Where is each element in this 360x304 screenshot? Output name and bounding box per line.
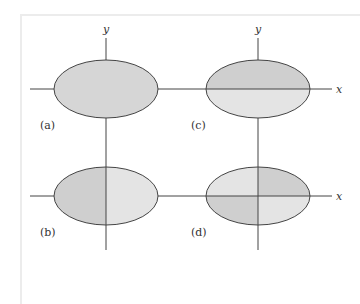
panel-a: y (a) <box>30 23 180 152</box>
y-axis-label: y <box>102 23 110 36</box>
ellipse <box>54 60 158 118</box>
ellipse-diagram: y (a) y x (c) (b) <box>0 0 360 304</box>
panel-label: (b) <box>40 226 56 239</box>
panel-label: (d) <box>191 226 207 239</box>
panel-c: y x (c) <box>180 23 343 152</box>
panel-label: (c) <box>191 119 206 132</box>
x-axis-label: x <box>336 83 343 96</box>
panel-d: x (d) <box>180 152 343 250</box>
panel-b: (b) <box>30 152 180 250</box>
x-axis-label: x <box>336 190 343 203</box>
panel-label: (a) <box>40 119 55 132</box>
y-axis-label: y <box>254 23 262 36</box>
